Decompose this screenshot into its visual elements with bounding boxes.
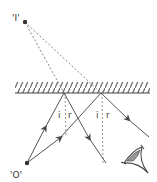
- angle-r-a: r: [68, 110, 72, 120]
- angle-r-b: r: [106, 110, 110, 120]
- object-label: 'O': [10, 170, 22, 180]
- incident-ray-b: [60, 93, 101, 138]
- object-point: [25, 161, 29, 165]
- reflected-ray-a: [89, 138, 106, 163]
- image-label: 'I': [12, 13, 20, 23]
- normal-a: [65, 93, 66, 135]
- mirror-hatching: [15, 82, 150, 93]
- reflection-diagram: i r i r 'I' 'O': [0, 0, 157, 182]
- plane-mirror: [15, 82, 150, 93]
- incident-ray-a-head: [27, 128, 45, 163]
- incident-ray-b-head: [27, 138, 60, 163]
- incident-rays: [27, 93, 101, 163]
- normal-b: [102, 93, 103, 163]
- incident-ray-a: [45, 93, 64, 128]
- eye-icon: [121, 145, 148, 173]
- reflected-ray-b: [128, 119, 149, 137]
- angle-i-a: i: [58, 110, 61, 120]
- image-point: [23, 20, 27, 24]
- angle-i-b: i: [96, 110, 99, 120]
